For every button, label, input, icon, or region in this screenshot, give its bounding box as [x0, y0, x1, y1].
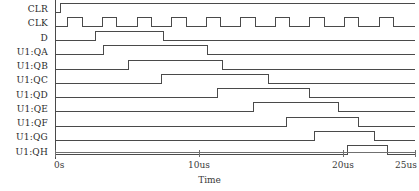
signal-label-clr: CLR	[28, 5, 48, 14]
trace-u1-qb	[55, 60, 415, 69]
trace-u1-qa	[55, 46, 415, 55]
signal-label-column: CLRCLKDU1:QAU1:QBU1:QCU1:QDU1:QEU1:QFU1:…	[0, 0, 50, 160]
signal-label-u1-qf: U1:QF	[17, 119, 48, 128]
signal-label-clk: CLK	[28, 19, 48, 28]
waveform-plot: CLRCLKDU1:QAU1:QBU1:QCU1:QDU1:QEU1:QFU1:…	[0, 0, 419, 191]
waveform-canvas[interactable]	[55, 0, 416, 160]
trace-u1-qd	[55, 89, 415, 98]
signal-label-d: D	[41, 34, 48, 43]
tick-label-2: 20us	[332, 161, 354, 170]
tick-label-0: 0s	[54, 161, 64, 170]
signal-label-u1-qd: U1:QD	[16, 91, 48, 100]
trace-u1-qg	[55, 131, 415, 140]
trace-u1-qe	[55, 103, 415, 112]
trace-clk	[55, 17, 415, 26]
trace-clr	[55, 3, 415, 12]
axis-title: Time	[0, 176, 419, 185]
signal-label-u1-qa: U1:QA	[17, 48, 48, 57]
trace-u1-qc	[55, 74, 415, 83]
signal-label-u1-qb: U1:QB	[17, 62, 48, 71]
waveform-traces	[55, 0, 416, 160]
tick-label-1: 10us	[188, 161, 210, 170]
signal-label-u1-qg: U1:QG	[16, 133, 48, 142]
trace-u1-qf	[55, 117, 415, 126]
signal-label-u1-qe: U1:QE	[17, 105, 48, 114]
signal-label-u1-qc: U1:QC	[16, 76, 48, 85]
tick-label-3: 25us	[395, 161, 417, 170]
trace-d	[55, 32, 415, 41]
